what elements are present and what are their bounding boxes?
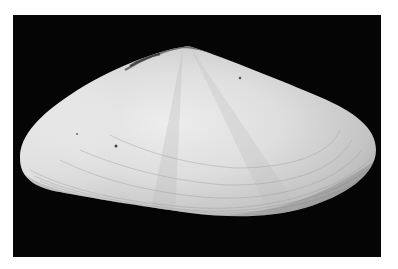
shell [0, 0, 398, 269]
shell-photo [0, 0, 398, 269]
